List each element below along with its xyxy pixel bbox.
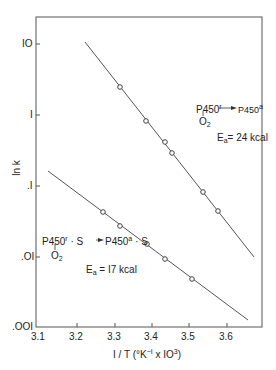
o2-sub: 2 [207,121,211,128]
species-sup: a [259,103,263,110]
x-tick-label: 3.1 [31,332,45,342]
x-tick-label: 3.4 [144,332,158,342]
x-axis-ticks [77,323,227,327]
species-suffix: · S [132,236,148,247]
species-sup: r [219,103,221,110]
ea-symbol: E [217,132,224,143]
o2-sub: 2 [59,255,63,262]
ea-value: = 24 kcal [228,132,268,143]
arrhenius-plot [0,0,276,370]
species-label: P450 [42,236,65,247]
lower-activation-energy: Ea = I7 kcal [86,265,137,276]
y-axis-label: ln k [12,160,22,176]
x-tick-label: 3.2 [69,332,83,342]
lower-o2-label: O2 [51,251,63,262]
ea-symbol: E [86,264,93,275]
o2-text: O [51,250,59,261]
x-axis-label-mid: x IO [153,349,174,360]
species-label: P450 [196,104,219,115]
upper-o2-label: O2 [199,117,211,128]
plot-frame [36,17,262,327]
x-axis-label-end: ) [178,349,181,360]
y-axis-ticks [36,44,40,257]
y-tick-label: .OOI [12,322,33,332]
species-label: P450 [105,236,128,247]
x-tick-label: 3.5 [181,332,195,342]
y-tick-label: .I [27,181,33,191]
upper-activation-energy: Ea= 24 kcal [217,133,268,144]
x-axis-label-main: I / T (°K [113,349,147,360]
o2-text: O [199,116,207,127]
lower-reaction-from: P450r · S [42,235,83,247]
ea-value: = I7 kcal [97,264,137,275]
upper-reaction-to: P450a [238,103,263,115]
species-label: P450 [238,105,259,115]
y-tick-label: IO [22,39,33,49]
reaction-arrow-lower [96,238,104,242]
y-tick-label: I [30,110,33,120]
lower-reaction-to: P450a · S [105,235,148,247]
species-suffix: · S [68,236,84,247]
x-tick-label: 3.6 [219,332,233,342]
x-tick-label: 3.3 [107,332,121,342]
fit-line-upper [85,42,254,257]
upper-reaction-from: P450r [196,103,222,115]
x-axis-label: I / T (°K−I x IO3) [113,348,181,360]
y-tick-label: .OI [21,252,34,262]
